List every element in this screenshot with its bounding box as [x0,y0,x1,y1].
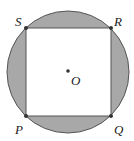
point-r [109,26,113,30]
point-s [24,26,28,30]
point-q [109,114,113,118]
label-p: P [14,122,23,137]
point-p [24,114,28,118]
point-o [66,69,70,73]
diagram-canvas: S R Q P O [0,0,134,141]
label-r: R [113,14,122,29]
label-o: O [71,73,81,88]
label-q: Q [114,122,124,137]
label-s: S [15,14,22,29]
